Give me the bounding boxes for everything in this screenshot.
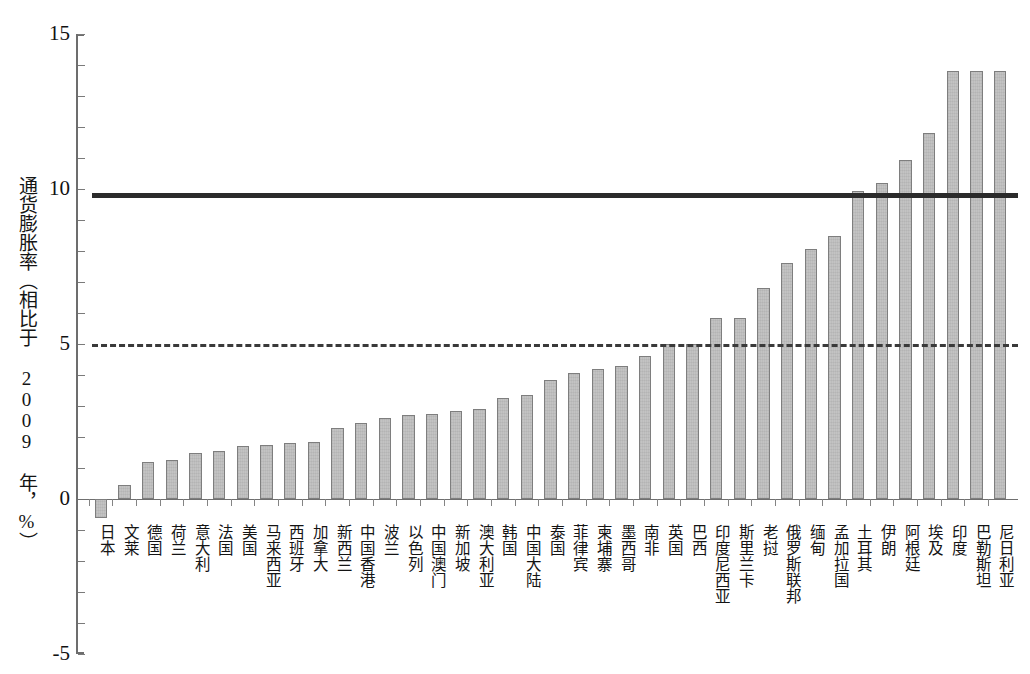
x-axis-tick-labels: 日本文莱德国荷兰意大利法国美国马来西亚西班牙加拿大新西兰中国香港波兰以色列中国澳… — [76, 524, 1018, 674]
bar — [592, 369, 604, 499]
bar — [947, 71, 959, 499]
bar — [95, 499, 107, 518]
x-tick-label: 尼日利亚 — [991, 524, 1013, 588]
x-tick-label: 南非 — [636, 524, 658, 556]
x-tick-mark — [964, 499, 965, 506]
x-tick-label: 老挝 — [755, 524, 777, 556]
y-tick-label: 5 — [32, 333, 70, 354]
bar — [189, 453, 201, 500]
x-tick-label: 印度 — [944, 524, 966, 556]
y-tick-label: 15 — [32, 23, 70, 44]
bar — [213, 451, 225, 499]
x-tick-label: 英国 — [660, 524, 682, 556]
x-tick-label: 马来西亚 — [258, 524, 280, 588]
bar — [497, 398, 509, 499]
x-tick-label: 巴西 — [684, 524, 706, 556]
x-tick-mark — [491, 499, 492, 506]
x-tick-label: 以色列 — [400, 524, 422, 572]
bar — [568, 373, 580, 499]
x-tick-label: 墨西哥 — [613, 524, 635, 572]
bar — [544, 380, 556, 499]
y-axis-tick-labels: 151050-5 — [32, 0, 70, 674]
x-tick-mark — [609, 499, 610, 506]
x-tick-mark — [799, 499, 800, 506]
y-tick-mark — [78, 468, 85, 469]
x-tick-label: 土耳其 — [849, 524, 871, 572]
x-tick-mark — [136, 499, 137, 506]
x-tick-mark — [467, 499, 468, 506]
x-tick-mark — [207, 499, 208, 506]
bar — [994, 71, 1006, 499]
x-tick-label: 新西兰 — [329, 524, 351, 572]
bar — [473, 409, 485, 499]
bar — [237, 446, 249, 499]
x-tick-label: 中国大陆 — [518, 524, 540, 588]
x-tick-mark — [917, 499, 918, 506]
x-tick-label: 德国 — [139, 524, 161, 556]
y-tick-mark — [78, 344, 85, 345]
bar — [757, 288, 769, 499]
x-tick-label: 日本 — [92, 524, 114, 556]
bar — [284, 443, 296, 499]
x-tick-label: 中国香港 — [352, 524, 374, 588]
x-tick-label: 印度尼西亚 — [707, 524, 729, 604]
x-tick-label: 孟加拉国 — [826, 524, 848, 588]
y-tick-label: -5 — [32, 643, 70, 664]
x-tick-mark — [728, 499, 729, 506]
bar — [308, 442, 320, 499]
bar — [402, 415, 414, 499]
x-tick-label: 荷兰 — [163, 524, 185, 556]
bar — [663, 344, 675, 499]
x-tick-mark — [846, 499, 847, 506]
x-tick-mark — [751, 499, 752, 506]
x-tick-label: 文莱 — [116, 524, 138, 556]
x-tick-label: 伊朗 — [873, 524, 895, 556]
x-tick-mark — [893, 499, 894, 506]
bar — [450, 411, 462, 499]
inflation-bar-chart: 通货膨胀率（相比于 2009 年，%） 151050-5 日本文莱德国荷兰意大利… — [0, 0, 1030, 674]
y-tick-mark — [78, 96, 85, 97]
bar — [118, 485, 130, 499]
x-tick-mark — [515, 499, 516, 506]
x-tick-label: 柬埔寨 — [589, 524, 611, 572]
bar — [923, 133, 935, 499]
bar — [805, 249, 817, 499]
x-tick-mark — [704, 499, 705, 506]
x-tick-mark — [870, 499, 871, 506]
x-tick-label: 中国澳门 — [423, 524, 445, 588]
y-tick-mark — [78, 282, 85, 283]
bar — [379, 418, 391, 499]
x-tick-mark — [586, 499, 587, 506]
y-tick-label: 0 — [32, 488, 70, 509]
bar — [781, 263, 793, 499]
x-tick-label: 巴勒斯坦 — [968, 524, 990, 588]
x-tick-label: 法国 — [210, 524, 232, 556]
x-tick-mark — [89, 499, 90, 506]
bar — [686, 344, 698, 499]
bar — [639, 356, 651, 499]
bar — [521, 395, 533, 499]
x-tick-mark — [112, 499, 113, 506]
x-tick-mark — [444, 499, 445, 506]
y-tick-label: 10 — [32, 178, 70, 199]
solid-reference-line — [92, 193, 1018, 198]
bar — [142, 462, 154, 499]
x-tick-label: 西班牙 — [281, 524, 303, 572]
x-tick-mark — [988, 499, 989, 506]
x-tick-mark — [349, 499, 350, 506]
x-tick-mark — [657, 499, 658, 506]
x-tick-mark — [254, 499, 255, 506]
x-tick-mark — [562, 499, 563, 506]
x-tick-mark — [396, 499, 397, 506]
y-tick-mark — [78, 127, 85, 128]
bar — [828, 236, 840, 500]
x-tick-mark — [302, 499, 303, 506]
x-tick-label: 澳大利亚 — [471, 524, 493, 588]
dashed-reference-line — [92, 344, 1018, 347]
x-tick-label: 意大利 — [187, 524, 209, 572]
x-tick-label: 阿根廷 — [897, 524, 919, 572]
y-tick-mark — [78, 189, 85, 190]
x-tick-mark — [373, 499, 374, 506]
x-tick-label: 俄罗斯联邦 — [778, 524, 800, 604]
x-tick-mark — [278, 499, 279, 506]
